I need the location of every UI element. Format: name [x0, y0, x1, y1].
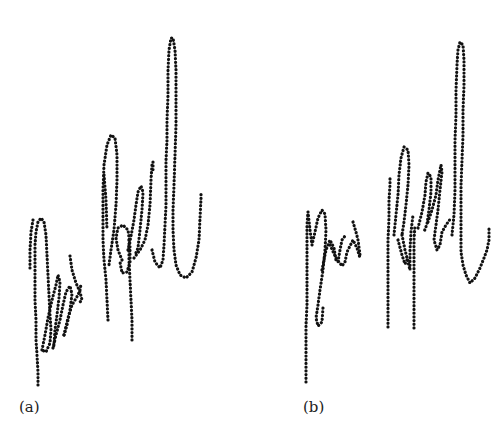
pen-stroke [42, 275, 60, 350]
pen-stroke [152, 38, 201, 278]
pen-stroke [452, 42, 489, 283]
pen-stroke [30, 220, 33, 268]
pen-stroke [103, 135, 117, 320]
signature-figure: (a) (b) [0, 0, 498, 438]
panel-a-label: (a) [19, 398, 40, 416]
signature-traces [0, 0, 498, 438]
panel-a-signature [30, 38, 201, 385]
pen-stroke [104, 175, 107, 230]
pen-stroke [308, 210, 326, 326]
panel-b-signature [306, 42, 489, 382]
pen-stroke [394, 147, 409, 235]
pen-stroke [414, 225, 415, 328]
pen-stroke [306, 212, 308, 382]
panel-b-label: (b) [303, 398, 324, 416]
pen-stroke [35, 218, 51, 385]
pen-stroke [388, 178, 390, 327]
